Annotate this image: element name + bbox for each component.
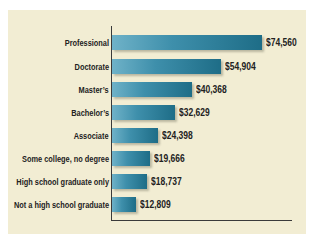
category-label: Associate — [74, 131, 109, 141]
category-label: Some college, no degree — [22, 154, 109, 164]
bar — [112, 82, 192, 97]
value-label: $40,368 — [196, 84, 227, 95]
bar — [112, 128, 158, 143]
bar — [112, 35, 262, 50]
bar-row: Not a high school graduate $12,809 — [0, 196, 316, 220]
bar — [112, 59, 221, 74]
category-label: Doctorate — [75, 62, 109, 72]
bar-row: Associate $24,398 — [0, 127, 316, 151]
category-label: Bachelor’s — [71, 108, 109, 118]
bar — [112, 197, 136, 212]
bar — [112, 151, 150, 166]
value-label: $12,809 — [140, 199, 171, 210]
value-label: $18,737 — [151, 176, 182, 187]
value-label: $19,666 — [154, 153, 185, 164]
category-label: Master’s — [79, 85, 109, 95]
bar — [112, 174, 147, 189]
bar-row: Bachelor’s $32,629 — [0, 104, 316, 128]
category-label: High school graduate only — [16, 177, 109, 187]
bar-row: Master’s $40,368 — [0, 81, 316, 105]
bar-row: High school graduate only $18,737 — [0, 173, 316, 197]
bar-row: Doctorate $54,904 — [0, 58, 316, 82]
value-label: $74,560 — [266, 37, 297, 48]
category-label: Not a high school graduate — [14, 200, 109, 210]
value-label: $54,904 — [225, 61, 256, 72]
bar-row: Professional $74,560 — [0, 34, 316, 58]
x-axis-line — [111, 220, 292, 221]
bar-row: Some college, no degree $19,666 — [0, 150, 316, 174]
category-label: Professional — [65, 38, 109, 48]
value-label: $24,398 — [162, 130, 193, 141]
bar — [112, 105, 175, 120]
value-label: $32,629 — [179, 107, 210, 118]
